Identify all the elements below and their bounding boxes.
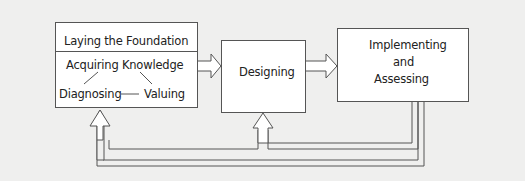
designing-label: Designing <box>239 65 295 79</box>
implementing-label: Implementing <box>369 38 447 52</box>
and-label: and <box>393 55 414 69</box>
assessing-label: Assessing <box>374 72 429 86</box>
